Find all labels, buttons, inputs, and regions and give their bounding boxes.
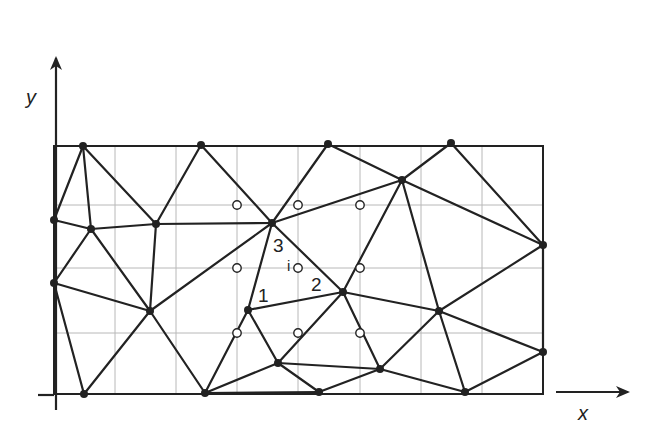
mesh-edge <box>451 143 543 245</box>
mesh-edge <box>54 283 150 311</box>
mesh-edge <box>150 223 272 311</box>
mesh-edge <box>205 392 319 393</box>
open-sample-point <box>294 264 302 272</box>
mesh-edge <box>205 310 248 393</box>
mesh-edge <box>343 292 439 311</box>
mesh-node <box>376 365 384 373</box>
mesh-node <box>324 140 332 148</box>
x-axis-label: x <box>577 402 589 424</box>
mesh-edge <box>54 220 91 229</box>
mesh-node <box>539 348 547 356</box>
mesh-edge <box>248 310 278 363</box>
mesh-node <box>197 141 205 149</box>
open-sample-point <box>294 201 302 209</box>
open-sample-point <box>233 201 241 209</box>
mesh-edge <box>84 311 150 394</box>
mesh-edge <box>91 229 150 311</box>
mesh-node <box>79 142 87 150</box>
open-sample-point <box>233 264 241 272</box>
open-sample-point <box>356 264 364 272</box>
mesh-edge <box>205 363 278 393</box>
open-sample-point <box>294 329 302 337</box>
mesh-edge <box>83 146 156 224</box>
mesh-node <box>447 139 455 147</box>
mesh-edge <box>54 146 83 220</box>
mesh-edge <box>54 229 91 283</box>
mesh-edge <box>272 223 343 292</box>
mesh-edge <box>54 283 84 394</box>
mesh-node <box>201 389 209 397</box>
mesh-edge <box>439 311 543 352</box>
mesh-edge <box>439 245 543 311</box>
mesh-edge <box>83 146 91 229</box>
mesh-edge <box>380 311 439 369</box>
mesh-edge <box>156 223 272 224</box>
mesh-edge <box>156 145 201 224</box>
mesh-edge <box>380 369 465 392</box>
point-label-i: i <box>287 257 290 274</box>
mesh-node <box>244 306 252 314</box>
mesh-node <box>50 216 58 224</box>
vertex-label-2: 2 <box>311 274 322 295</box>
mesh-node <box>50 279 58 287</box>
mesh-node <box>87 225 95 233</box>
mesh-edge <box>272 144 328 223</box>
mesh-node <box>146 307 154 315</box>
mesh-edge <box>465 352 543 392</box>
mesh-node <box>339 288 347 296</box>
mesh-node <box>435 307 443 315</box>
mesh-edge <box>402 180 543 245</box>
mesh-edge <box>402 143 451 180</box>
mesh-edge <box>91 224 156 229</box>
open-sample-point <box>233 329 241 337</box>
mesh-node <box>152 220 160 228</box>
open-sample-point <box>356 201 364 209</box>
y-axis-label: y <box>24 86 37 108</box>
mesh-edge <box>319 369 380 392</box>
mesh-node <box>461 388 469 396</box>
mesh-edge <box>328 144 402 180</box>
mesh-node <box>268 219 276 227</box>
mesh-node <box>539 241 547 249</box>
mesh-node <box>80 390 88 398</box>
vertex-label-3: 3 <box>273 235 284 256</box>
vertex-label-1: 1 <box>258 285 269 306</box>
mesh-edge <box>150 311 205 393</box>
mesh-node <box>315 388 323 396</box>
open-sample-point <box>356 329 364 337</box>
mesh-edge <box>278 363 380 369</box>
mesh-node <box>398 176 406 184</box>
triangular-mesh-diagram: y x 1 2 3 i <box>0 0 664 439</box>
mesh-edge <box>439 311 465 392</box>
mesh-node <box>274 359 282 367</box>
